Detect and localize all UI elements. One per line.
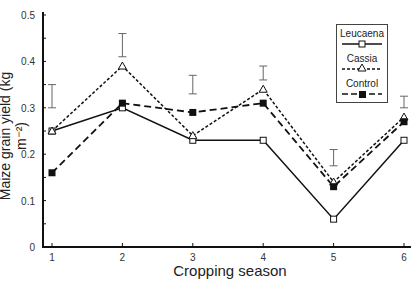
x-axis-label: Cropping season — [140, 262, 320, 279]
legend-symbols — [337, 25, 387, 102]
legend: Leucaena Cassia Control — [336, 24, 388, 103]
open-triangle-icon — [358, 64, 366, 71]
svg-text:1: 1 — [49, 252, 55, 263]
svg-text:2: 2 — [120, 252, 126, 263]
svg-text:6: 6 — [401, 252, 407, 263]
svg-text:0.5: 0.5 — [21, 10, 35, 21]
y-axis-label: Maize grain yield (kg m⁻²) — [0, 61, 29, 211]
svg-text:0: 0 — [29, 242, 35, 253]
open-square-icon — [359, 41, 365, 47]
filled-square-icon — [359, 91, 366, 98]
svg-text:5: 5 — [331, 252, 337, 263]
